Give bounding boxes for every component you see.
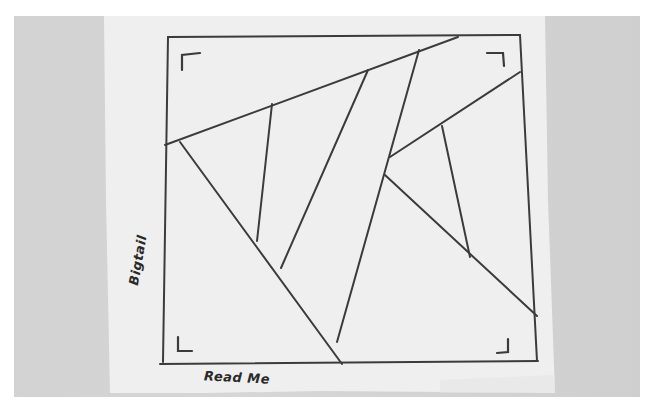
napkin-sketch [14,16,640,397]
photo: Bigtail Read Me [14,16,640,397]
napkin-paper [104,16,555,393]
